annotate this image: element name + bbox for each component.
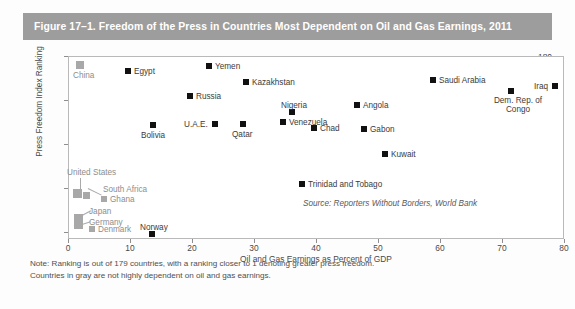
x-tick-label-20: 20 — [172, 243, 212, 253]
data-label-denmark: Denmark — [98, 225, 131, 234]
data-point-gabon — [361, 126, 367, 132]
data-label-saudi-arabia: Saudi Arabia — [439, 76, 485, 85]
data-label-uae: U.A.E. — [184, 120, 208, 129]
data-point-chad — [311, 125, 317, 131]
figure-note: Note: Ranking is out of 179 countries, w… — [30, 258, 500, 281]
data-point-venezuela — [280, 119, 286, 125]
data-point-bolivia — [150, 122, 156, 128]
data-point-qatar — [240, 121, 246, 127]
data-label-bolivia: Bolivia — [141, 131, 165, 140]
data-label-russia: Russia — [196, 92, 221, 101]
data-label-dem-rep-congo: Dem. Rep. of Congo — [489, 96, 547, 114]
data-point-saudi-arabia — [430, 77, 436, 83]
data-point-kuwait — [382, 151, 388, 157]
x-tick-label-30: 30 — [234, 243, 274, 253]
data-point-trinidad-and-tobago — [299, 181, 305, 187]
data-label-norway: Norway — [140, 223, 168, 232]
x-tick-label-50: 50 — [358, 243, 398, 253]
data-label-yemen: Yemen — [215, 62, 240, 71]
x-tick-label-10: 10 — [110, 243, 150, 253]
data-point-angola — [354, 102, 360, 108]
x-tick-label-40: 40 — [296, 243, 336, 253]
data-label-ghana: Ghana — [110, 195, 135, 204]
data-point-dem-rep-congo — [508, 88, 514, 94]
data-label-kazakhstan: Kazakhstan — [252, 78, 295, 87]
x-tick-label-60: 60 — [420, 243, 460, 253]
figure-title-bar: Figure 17–1. Freedom of the Press in Cou… — [23, 13, 552, 40]
data-label-united-states: United States — [67, 168, 116, 177]
data-point-russia — [187, 93, 193, 99]
figure-container: Figure 17–1. Freedom of the Press in Cou… — [0, 0, 575, 309]
data-label-kuwait: Kuwait — [391, 150, 416, 159]
data-point-south-africa — [83, 192, 90, 199]
x-tick-label-70: 70 — [482, 243, 522, 253]
data-label-japan: Japan — [89, 207, 111, 216]
figure-note-line-2: Countries in gray are not highly depende… — [30, 270, 500, 282]
data-label-iraq: Iraq — [534, 82, 548, 91]
leader-line-united-states — [80, 178, 81, 193]
plot-area: Press Freedom Index Ranking 180 135 90 4… — [23, 48, 552, 248]
data-point-kazakhstan — [243, 79, 249, 85]
y-axis-title: Press Freedom Index Ranking — [35, 27, 44, 177]
data-label-china: China — [73, 71, 94, 80]
page-title: Figure 17–1. Freedom of the Press in Cou… — [23, 21, 512, 32]
data-point-yemen — [206, 63, 212, 69]
chart-source-note: Source: Reporters Without Borders, World… — [303, 199, 477, 208]
data-point-china — [76, 61, 84, 69]
data-point-ghana — [101, 196, 107, 202]
data-label-gabon: Gabon — [370, 125, 395, 134]
data-point-egypt — [125, 68, 131, 74]
x-tick-label-80: 80 — [544, 243, 575, 253]
data-label-nigeria: Nigeria — [281, 101, 307, 110]
data-label-south-africa: South Africa — [103, 185, 147, 194]
data-point-uae — [212, 121, 218, 127]
data-point-denmark — [89, 226, 95, 232]
plot-frame: Egypt Yemen Kazakhstan Russia Nigeria An… — [68, 56, 564, 239]
data-point-iraq — [552, 83, 558, 89]
figure-note-line-1: Note: Ranking is out of 179 countries, w… — [30, 258, 500, 270]
data-label-angola: Angola — [363, 101, 389, 110]
data-label-chad: Chad — [320, 124, 340, 133]
data-label-qatar: Qatar — [232, 130, 252, 139]
data-label-trinidad-and-tobago: Trinidad and Tobago — [308, 180, 382, 189]
x-tick-label-0: 0 — [48, 243, 88, 253]
data-label-egypt: Egypt — [134, 67, 155, 76]
